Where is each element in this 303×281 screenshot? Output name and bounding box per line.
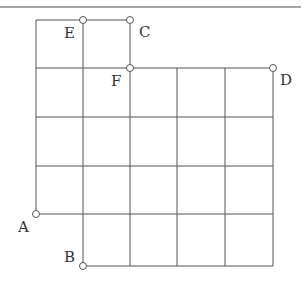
point-b-label: B xyxy=(64,248,75,266)
grid-lines xyxy=(36,20,273,266)
point-b-marker xyxy=(80,263,87,270)
point-a-label: A xyxy=(17,218,29,236)
point-c-marker xyxy=(127,17,134,24)
point-a-marker xyxy=(33,211,40,218)
point-e-marker xyxy=(80,17,87,24)
points: ABCDEF xyxy=(17,17,292,270)
point-d-marker xyxy=(270,65,277,72)
point-f-marker xyxy=(127,65,134,72)
point-f-label: F xyxy=(111,72,121,90)
point-c-label: C xyxy=(139,23,150,41)
point-e-label: E xyxy=(64,24,75,42)
point-d-label: D xyxy=(280,71,292,89)
grid-diagram: ABCDEF xyxy=(0,0,303,281)
